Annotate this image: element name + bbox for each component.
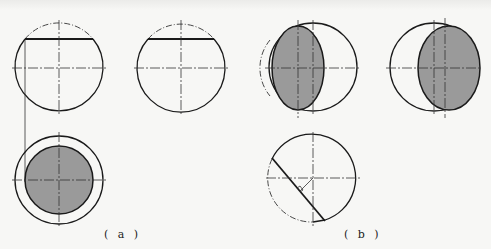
diagram-svg: .outline { fill: none; stroke: #1a1a1a; … bbox=[0, 0, 491, 249]
view-a-side bbox=[134, 20, 229, 116]
view-a-section bbox=[12, 132, 106, 228]
diagram-canvas: .outline { fill: none; stroke: #1a1a1a; … bbox=[0, 0, 491, 249]
view-b-left-ellipse bbox=[260, 20, 360, 118]
label-panel-a: ( a ) bbox=[104, 228, 141, 241]
view-b-right-ellipse bbox=[386, 18, 480, 118]
label-panel-b: ( b ) bbox=[344, 228, 382, 241]
view-b-inclined-cut bbox=[266, 132, 361, 228]
